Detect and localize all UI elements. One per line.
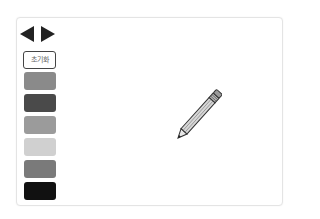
drawing-canvas[interactable] <box>60 18 281 204</box>
color-swatch-slate-gray[interactable] <box>24 160 56 178</box>
triangle-right-icon[interactable] <box>41 26 55 42</box>
color-swatch-medium-gray[interactable] <box>24 116 56 134</box>
triangle-left-icon[interactable] <box>20 26 34 42</box>
nav-arrows <box>20 26 56 43</box>
color-swatch-gray[interactable] <box>24 72 56 90</box>
pencil-icon <box>172 88 222 144</box>
color-swatch-dark-gray[interactable] <box>24 94 56 112</box>
color-swatch-black[interactable] <box>24 182 56 200</box>
color-swatch-light-gray[interactable] <box>24 138 56 156</box>
reset-button[interactable]: 초기화 <box>23 51 56 69</box>
